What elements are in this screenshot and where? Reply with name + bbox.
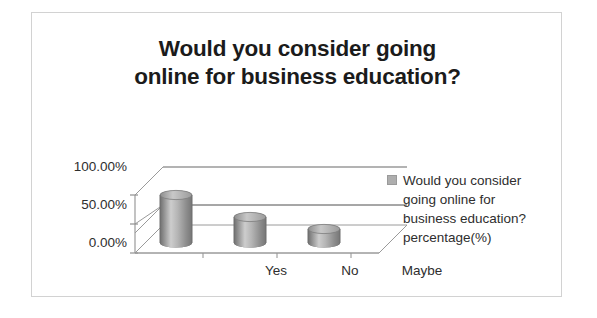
chart-title-line-2: online for business education? — [32, 63, 563, 91]
y-axis-tick-label-50: 50.00% — [32, 197, 127, 212]
x-axis-tick-label-maybe: Maybe — [389, 263, 455, 278]
chart-title: Would you consider going online for busi… — [32, 35, 563, 91]
legend-label-line-2: going online for — [403, 190, 526, 209]
legend-item-label: Would you consider going online for busi… — [403, 171, 526, 248]
legend-item: Would you consider going online for busi… — [387, 171, 547, 248]
legend-label-line-4: percentage(%) — [403, 228, 526, 247]
chart-plot-area: 100.00% 50.00% 0.00% — [32, 131, 563, 291]
x-axis: Yes No Maybe — [127, 263, 392, 287]
x-axis-tick-label-no: No — [320, 263, 380, 278]
bar-yes — [160, 190, 192, 247]
y-axis-tick-label-100: 100.00% — [32, 159, 127, 174]
chart-legend: Would you consider going online for busi… — [387, 171, 547, 248]
y-axis: 100.00% 50.00% 0.00% — [32, 159, 127, 255]
legend-label-line-3: business education? — [403, 209, 526, 228]
x-axis-tick-label-yes: Yes — [246, 263, 306, 278]
legend-color-swatch-icon — [387, 175, 397, 185]
chart-title-line-1: Would you consider going — [32, 35, 563, 63]
bar-maybe — [308, 224, 340, 247]
legend-label-line-1: Would you consider — [403, 171, 526, 190]
y-axis-tick-label-0: 0.00% — [32, 235, 127, 250]
slide-frame: Would you consider going online for busi… — [31, 12, 562, 297]
bar-no — [234, 212, 266, 247]
chart-3d-canvas — [127, 149, 407, 269]
